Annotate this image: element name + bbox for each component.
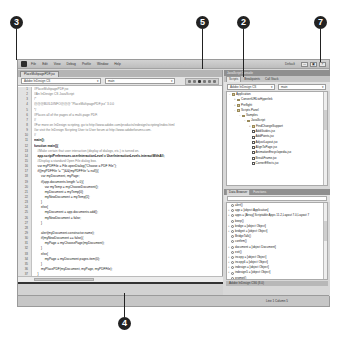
script-file-icon	[252, 130, 255, 133]
tab-call-stack[interactable]: Call Stack	[263, 77, 281, 82]
object-icon	[231, 235, 234, 238]
code-editor[interactable]: 1234567891011121314151617181920212223242…	[18, 87, 223, 282]
callout-5: 5	[196, 16, 209, 29]
object-icon	[231, 220, 234, 223]
extendscript-toolkit-window: File Edit View Debug Profile Window Help…	[17, 59, 330, 307]
callout-leader-5	[202, 29, 203, 69]
stop-icon[interactable]	[198, 80, 201, 83]
callout-leader-4	[124, 293, 125, 317]
scrollbar-thumb[interactable]	[324, 110, 327, 130]
data-browser-list[interactable]: alert()+app = [object Application]+apps …	[226, 202, 328, 280]
editor-bottom-bar	[18, 282, 223, 296]
minimize-button[interactable]: —	[301, 62, 308, 67]
object-icon	[231, 230, 234, 233]
callout-7: 7	[314, 16, 327, 29]
function-select[interactable]: main ▾	[105, 78, 175, 84]
data-browser-filter-input[interactable]	[227, 196, 327, 201]
menu-help[interactable]: Help	[114, 62, 121, 66]
app-logo-icon	[21, 61, 27, 67]
callout-leader-3	[16, 29, 17, 60]
menu-file[interactable]: File	[31, 62, 36, 66]
menu-bar: File Edit View Debug Profile Window Help…	[18, 60, 329, 69]
tree-item[interactable]: CornerEffects.jsx	[227, 161, 327, 166]
tab-data-browser[interactable]: Data Browser	[226, 189, 250, 195]
tab-scripts[interactable]: Scripts	[226, 76, 241, 82]
callout-leader-2	[243, 29, 244, 77]
folder-icon	[252, 125, 255, 128]
chevron-down-icon: ▾	[97, 79, 99, 83]
menu-profile[interactable]: Profile	[82, 62, 91, 66]
object-icon	[231, 204, 234, 207]
vertical-scrollbar[interactable]	[323, 203, 327, 279]
scrollbar-thumb[interactable]	[34, 278, 94, 281]
object-icon	[231, 277, 234, 280]
object-icon	[231, 225, 234, 228]
menu-window[interactable]: Window	[97, 62, 108, 66]
step-out-icon[interactable]	[213, 80, 216, 83]
script-file-icon	[252, 151, 255, 154]
tree-item-label: CornerEffects.jsx	[256, 161, 279, 166]
scripts-tree[interactable]: −Application+ConvertURLtoHyperlink+Prefl…	[226, 91, 328, 186]
object-icon	[231, 209, 234, 212]
chevron-down-icon: ▾	[271, 85, 273, 89]
window-controls: Default — ▣ ×	[285, 62, 326, 67]
callout-2: 2	[237, 16, 250, 29]
callout-4: 4	[118, 317, 131, 330]
object-icon	[231, 261, 234, 264]
object-icon	[231, 214, 234, 217]
menu-edit[interactable]: Edit	[42, 62, 48, 66]
line-number-gutter: 1234567891011121314151617181920212223242…	[18, 87, 32, 282]
data-browser-item-label: prompt()	[235, 276, 246, 280]
scripts-function-value: main	[281, 85, 288, 89]
chevron-down-icon: ▾	[322, 85, 324, 89]
debugging-toolbar	[185, 78, 219, 85]
object-icon	[231, 240, 234, 243]
chevron-down-icon: ▾	[171, 79, 173, 83]
folder-icon	[232, 93, 235, 96]
scripts-function-select[interactable]: main ▾	[278, 84, 326, 90]
target-application-value: Adobe InDesign CS	[24, 79, 50, 83]
menu-view[interactable]: View	[54, 62, 61, 66]
cursor-position: Line 1 Column 5	[266, 299, 288, 303]
target-toolbar: Adobe InDesign CS ▾ main ▾	[18, 77, 222, 86]
script-file-icon	[252, 162, 255, 165]
callout-3: 3	[10, 16, 23, 29]
vertical-scrollbar[interactable]	[323, 92, 327, 185]
scrollbar-thumb[interactable]	[324, 221, 327, 241]
scripts-target-value: Adobe InDesign CS	[230, 85, 256, 89]
data-browser-item[interactable]: prompt()	[227, 276, 327, 280]
run-icon[interactable]	[188, 80, 191, 83]
object-icon	[231, 272, 234, 275]
maximize-button[interactable]: ▣	[310, 62, 317, 67]
scripts-panel-selects: Adobe InDesign CS ▾ main ▾	[224, 82, 330, 91]
scripts-target-select[interactable]: Adobe InDesign CS ▾	[227, 84, 275, 90]
step-into-icon[interactable]	[208, 80, 211, 83]
workspace-selector[interactable]: Default	[285, 62, 295, 66]
pause-icon[interactable]	[193, 80, 196, 83]
code-lines[interactable]: //PlaceMultipagePDF.jsx//An InDesign CS …	[32, 87, 223, 282]
document-tab[interactable]: PlaceMultipagePDF.jsx	[20, 71, 59, 77]
step-over-icon[interactable]	[203, 80, 206, 83]
filter-row	[224, 195, 330, 202]
function-value: main	[108, 79, 115, 83]
target-application-select[interactable]: Adobe InDesign CS ▾	[21, 78, 101, 84]
script-file-icon	[252, 146, 255, 149]
tab-functions[interactable]: Functions	[251, 190, 268, 195]
tab-breakpoints[interactable]: Breakpoints	[242, 77, 262, 82]
folder-icon	[237, 99, 240, 102]
panels-area: JavaScript Console Scripts Breakpoints C…	[224, 70, 330, 296]
data-browser-target: Adobe InDesign CS6 (8.0)	[226, 281, 328, 286]
folder-icon	[242, 115, 245, 118]
callout-leader-7	[320, 29, 321, 62]
folder-icon	[237, 109, 240, 112]
close-button[interactable]: ×	[319, 62, 326, 67]
object-icon	[231, 251, 234, 254]
object-icon	[231, 256, 234, 259]
document-tab-bar: PlaceMultipagePDF.jsx	[18, 70, 222, 77]
folder-icon	[247, 120, 250, 123]
folder-icon	[237, 104, 240, 107]
menu-debug[interactable]: Debug	[67, 62, 76, 66]
script-file-icon	[252, 136, 255, 139]
object-icon	[231, 266, 234, 269]
script-file-icon	[252, 141, 255, 144]
